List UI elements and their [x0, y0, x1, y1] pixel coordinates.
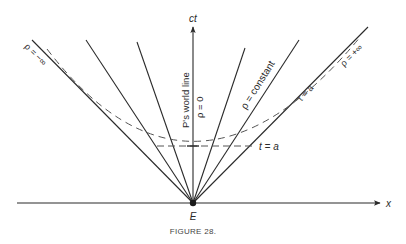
ray-rho-minus-infinity [32, 40, 193, 203]
label-tau-a: τ = a [295, 83, 315, 104]
ray-right-1 [193, 48, 245, 203]
ray-rho-plus-infinity [193, 27, 368, 203]
label-world-line: P's world line [180, 72, 191, 128]
ray-left-2 [86, 40, 193, 203]
spacetime-diagram: ct x E ρ = −∞ P's world line ρ = 0 ρ = c… [0, 0, 406, 244]
label-rho-zero: ρ = 0 [194, 96, 205, 118]
origin-label: E [190, 211, 197, 222]
ray-rho-constant [193, 40, 299, 203]
label-t-a: t = a [259, 141, 279, 152]
label-rho-plus-infinity: ρ = +∞ [338, 42, 364, 68]
x-axis-label: x [385, 198, 392, 209]
label-rho-minus-infinity: ρ = −∞ [23, 41, 49, 67]
figure-caption: FIGURE 28. [170, 227, 217, 236]
origin-point-e [190, 200, 196, 206]
ct-axis-label: ct [189, 13, 198, 24]
